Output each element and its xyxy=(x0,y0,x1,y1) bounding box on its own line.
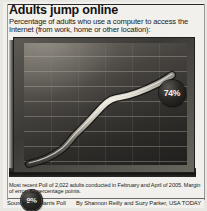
byline-label: By Shannon Reilly and Suzy Parker, USA T… xyxy=(76,200,201,206)
page-title: Adults jump online xyxy=(9,4,199,17)
chart-footnote: Most recent Poll of 2,022 adults conduct… xyxy=(9,182,201,195)
right-rule xyxy=(204,4,205,200)
source-label: Source: The Harris Poll xyxy=(7,200,66,206)
data-line xyxy=(9,38,196,180)
chart-subtitle: Percentage of adults who use a computer … xyxy=(9,18,201,35)
credits-bar: Source: The Harris Poll By Shannon Reill… xyxy=(3,200,204,210)
chart-area: 9% 74% 1995 2005 xyxy=(9,38,196,180)
data-label-end: 74% xyxy=(159,80,185,106)
left-rule xyxy=(7,4,8,200)
usa-today-snapshot-infographic: Adults jump online Percentage of adults … xyxy=(0,0,207,211)
